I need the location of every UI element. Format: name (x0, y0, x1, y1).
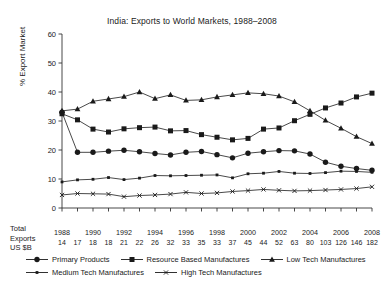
series-1 (59, 110, 374, 173)
legend-label: Medium Tech Manufactures (52, 268, 144, 277)
data-point (122, 126, 127, 131)
data-point (261, 127, 266, 132)
data-point (183, 150, 188, 155)
data-point (199, 149, 204, 154)
x-tick-label: 1994 (147, 228, 163, 237)
total-export-value: 44 (260, 239, 268, 246)
data-point (355, 170, 358, 173)
legend-item-2[interactable]: Resource Based Manufactures (121, 255, 250, 264)
total-export-value: 103 (320, 239, 332, 246)
data-point (262, 172, 265, 175)
x-tick-label: 1996 (178, 228, 194, 237)
data-point (261, 149, 266, 154)
chart-legend: Primary ProductsResource Based Manufactu… (26, 255, 378, 281)
data-point (339, 101, 344, 106)
data-point (76, 178, 79, 181)
chart-title: India: Exports to World Markets, 1988–20… (0, 16, 384, 26)
data-point (106, 148, 111, 153)
total-export-value: 37 (229, 239, 237, 246)
data-point (293, 172, 296, 175)
legend-item-3[interactable]: Low Tech Manufactures (261, 255, 366, 264)
data-point (340, 170, 343, 173)
data-point (307, 151, 312, 156)
data-point (230, 137, 235, 142)
legend-row-1: Primary ProductsResource Based Manufactu… (26, 255, 378, 264)
data-point (75, 106, 81, 111)
x-axis-totals-row: 1417181821222632333533374544526380103126… (0, 239, 384, 250)
data-point (354, 134, 360, 139)
data-point (247, 172, 250, 175)
data-point (230, 155, 235, 160)
total-export-value: 182 (366, 239, 378, 246)
legend-row-2: Medium Tech ManufacturesHigh Tech Manufa… (26, 268, 378, 277)
total-export-value: 32 (167, 239, 175, 246)
data-point (34, 257, 39, 262)
data-point (153, 125, 158, 130)
x-tick-label: 2000 (240, 228, 256, 237)
data-point (137, 149, 142, 154)
legend-marker-square-icon (121, 255, 143, 264)
total-export-value: 33 (213, 239, 221, 246)
data-point (137, 125, 142, 130)
x-tick-label: 1990 (85, 228, 101, 237)
total-export-value: 80 (306, 239, 314, 246)
legend-marker-circle-icon (26, 255, 48, 264)
total-export-value: 22 (136, 239, 144, 246)
total-export-value: 33 (182, 239, 190, 246)
data-point (121, 148, 126, 153)
plot-area: 0102030405060 (0, 26, 384, 226)
data-point (309, 172, 312, 175)
legend-label: High Tech Manufactures (181, 268, 262, 277)
y-tick-label: 20 (48, 146, 56, 155)
legend-marker-small-square-icon (26, 268, 48, 277)
plot-svg: 0102030405060 (0, 26, 384, 226)
data-point (91, 127, 96, 132)
series-5 (60, 185, 374, 199)
y-tick-label: 60 (48, 30, 56, 39)
series-4 (61, 170, 374, 184)
data-point (129, 257, 134, 262)
total-export-value: 14 (58, 239, 66, 246)
y-tick-label: 30 (48, 117, 56, 126)
data-point (123, 178, 126, 181)
data-point (245, 150, 250, 155)
data-point (152, 151, 157, 156)
data-point (371, 171, 374, 174)
legend-marker-triangle-icon (261, 255, 283, 264)
legend-item-1[interactable]: Primary Products (26, 255, 110, 264)
x-tick-label: 1998 (209, 228, 225, 237)
legend-item-5[interactable]: High Tech Manufactures (155, 268, 262, 277)
total-export-value: 126 (335, 239, 347, 246)
y-tick-label: 10 (48, 175, 56, 184)
data-point (307, 108, 313, 113)
data-point (338, 164, 343, 169)
total-export-value: 146 (351, 239, 363, 246)
data-point (369, 141, 375, 146)
data-point (324, 171, 327, 174)
data-point (215, 135, 220, 140)
data-point (92, 178, 95, 181)
data-point (246, 136, 251, 141)
legend-marker-cross-icon (155, 268, 177, 277)
legend-label: Low Tech Manufactures (287, 255, 366, 264)
data-point (323, 117, 329, 122)
data-point (278, 170, 281, 173)
data-point (292, 118, 297, 123)
data-point (138, 177, 141, 180)
x-tick-label: 2004 (302, 228, 318, 237)
legend-item-4[interactable]: Medium Tech Manufactures (26, 268, 144, 277)
data-point (61, 181, 64, 184)
data-point (216, 174, 219, 177)
x-tick-label: 2006 (333, 228, 349, 237)
y-tick-label: 50 (48, 59, 56, 68)
series-line (62, 187, 372, 197)
data-point (107, 176, 110, 179)
data-point (338, 125, 344, 130)
data-point (245, 90, 251, 95)
total-export-value: 35 (198, 239, 206, 246)
data-point (75, 150, 80, 155)
legend-label: Resource Based Manufactures (147, 255, 250, 264)
data-point (90, 150, 95, 155)
data-point (370, 91, 375, 96)
total-export-value: 52 (275, 239, 283, 246)
